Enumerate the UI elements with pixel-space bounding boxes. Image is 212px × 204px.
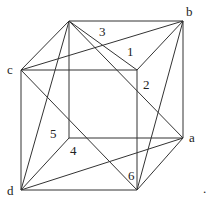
region-label-1: 1 bbox=[127, 44, 134, 59]
region-label-3: 3 bbox=[99, 24, 106, 39]
trailing-period: . bbox=[203, 181, 206, 196]
region-label-5: 5 bbox=[50, 126, 57, 141]
region-label-2: 2 bbox=[143, 77, 150, 92]
region-label-4: 4 bbox=[70, 143, 77, 158]
cube-diagram: b c a d 3 1 2 5 4 6 . bbox=[0, 0, 212, 204]
vertex-label-c: c bbox=[7, 62, 13, 77]
vertex-label-a: a bbox=[189, 130, 195, 145]
vertex-label-b: b bbox=[186, 4, 193, 19]
vertex-label-d: d bbox=[7, 183, 14, 198]
region-label-6: 6 bbox=[128, 168, 135, 183]
